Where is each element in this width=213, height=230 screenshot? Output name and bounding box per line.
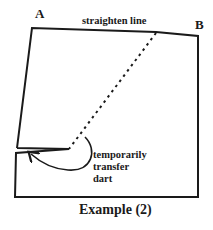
straighten-line-label: straighten line bbox=[82, 15, 146, 27]
dart-note-line-2: transfer bbox=[93, 161, 147, 173]
dart-note: temporarily transfer dart bbox=[93, 149, 147, 185]
corner-label-a: A bbox=[35, 6, 44, 22]
pattern-diagram bbox=[0, 0, 213, 230]
figure-caption: Example (2) bbox=[79, 202, 152, 218]
corner-label-b: B bbox=[195, 17, 204, 33]
dotted-slash-line bbox=[69, 33, 156, 149]
transfer-arrow-icon bbox=[31, 137, 92, 170]
dart-note-line-1: temporarily bbox=[93, 149, 147, 161]
dart-note-line-3: dart bbox=[93, 173, 147, 185]
